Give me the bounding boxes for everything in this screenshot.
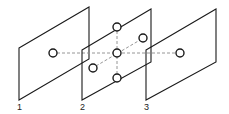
node-left — [49, 49, 57, 57]
planes-diagram: 1 2 3 — [0, 0, 229, 114]
node-top — [113, 23, 121, 31]
plane-label-2: 2 — [80, 102, 85, 112]
plane-label-3: 3 — [144, 102, 149, 112]
node-upper-right — [139, 34, 147, 42]
node-lower-left — [89, 64, 97, 72]
plane-label-1: 1 — [17, 102, 22, 112]
node-center — [113, 49, 121, 57]
node-bottom — [113, 74, 121, 82]
node-right — [176, 49, 184, 57]
